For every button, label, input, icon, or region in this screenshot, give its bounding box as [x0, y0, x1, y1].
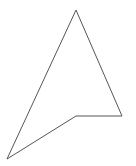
quadrilateral-shape [7, 10, 122, 159]
diagram-canvas [0, 0, 136, 166]
